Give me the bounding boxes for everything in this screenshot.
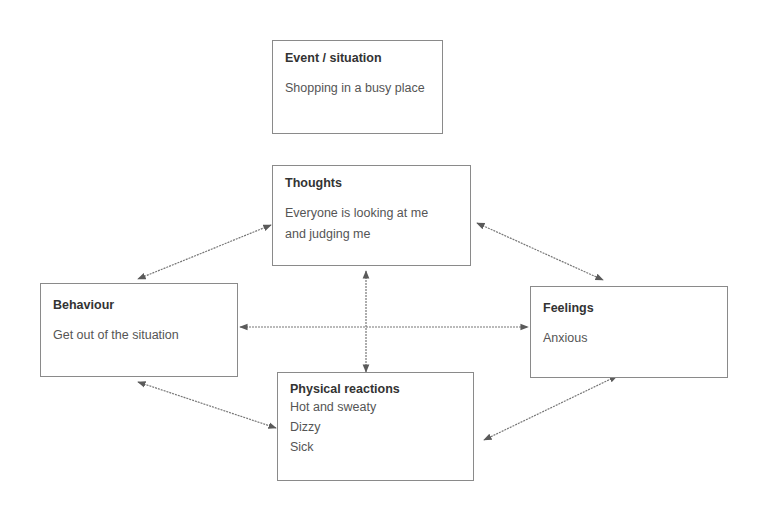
thoughts-box: Thoughts Everyone is looking at me and j… xyxy=(272,165,471,266)
event-situation-box: Event / situation Shopping in a busy pla… xyxy=(272,40,443,134)
event-title: Event / situation xyxy=(285,50,430,66)
thoughts-text-line-2: and judging me xyxy=(285,224,458,245)
physical-title: Physical reactions xyxy=(290,381,461,397)
thoughts-text-line-1: Everyone is looking at me xyxy=(285,203,458,224)
arrow-thoughts-feelings xyxy=(477,223,603,280)
physical-text-line-3: Sick xyxy=(290,437,461,457)
physical-reactions-box: Physical reactions Hot and sweaty Dizzy … xyxy=(277,372,474,481)
arrow-behaviour-physical xyxy=(138,382,276,428)
feelings-text: Anxious xyxy=(543,328,715,349)
thoughts-title: Thoughts xyxy=(285,175,458,191)
behaviour-text: Get out of the situation xyxy=(53,325,225,346)
feelings-title: Feelings xyxy=(543,300,715,316)
feelings-box: Feelings Anxious xyxy=(530,286,728,378)
arrow-thoughts-behaviour xyxy=(138,225,271,279)
behaviour-title: Behaviour xyxy=(53,297,225,313)
behaviour-box: Behaviour Get out of the situation xyxy=(40,283,238,377)
arrow-feelings-physical xyxy=(484,376,617,440)
physical-text-line-1: Hot and sweaty xyxy=(290,397,461,417)
event-text: Shopping in a busy place xyxy=(285,78,430,99)
physical-text-line-2: Dizzy xyxy=(290,417,461,437)
